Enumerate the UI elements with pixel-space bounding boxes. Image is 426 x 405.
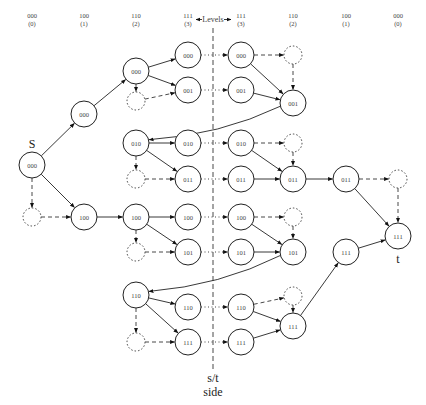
node-label: 101 bbox=[183, 249, 193, 256]
state-node: 011 bbox=[228, 166, 254, 192]
placeholder-node bbox=[284, 134, 302, 152]
state-node: 000 bbox=[228, 42, 254, 68]
state-node: 110 bbox=[175, 294, 201, 320]
node-label: 101 bbox=[288, 249, 298, 256]
edge-arrow bbox=[148, 59, 175, 67]
edge-arrow bbox=[253, 330, 280, 338]
level-column-bits: 000 bbox=[393, 12, 403, 19]
level-column-bits: 100 bbox=[341, 12, 351, 19]
edge-arrow bbox=[253, 311, 280, 321]
node-label: 001 bbox=[288, 100, 298, 107]
level-column-bits: 111 bbox=[236, 12, 245, 19]
node-label: 011 bbox=[288, 176, 298, 183]
node-label: 011 bbox=[183, 176, 193, 183]
state-node: 001 bbox=[175, 77, 201, 103]
node-label: 010 bbox=[236, 140, 246, 147]
node-label: 010 bbox=[183, 140, 193, 147]
state-node: 101 bbox=[175, 239, 201, 265]
state-node: 110 bbox=[123, 282, 149, 308]
state-node: 101 bbox=[228, 239, 254, 265]
node-circle bbox=[284, 208, 302, 226]
state-node: 100 bbox=[175, 204, 201, 230]
edge-arrow bbox=[147, 150, 177, 171]
node-label: 101 bbox=[236, 249, 246, 256]
placeholder-node bbox=[127, 170, 145, 188]
state-node: 011 bbox=[280, 166, 306, 192]
node-label: 111 bbox=[393, 233, 402, 240]
state-node: 000 bbox=[19, 152, 45, 178]
node-circle bbox=[127, 92, 145, 110]
state-node: 001 bbox=[280, 90, 306, 116]
edge-arrow bbox=[252, 150, 282, 171]
edge-arrow bbox=[146, 304, 178, 333]
node-label: 111 bbox=[288, 323, 297, 330]
state-node: 101 bbox=[280, 239, 306, 265]
node-label: 000 bbox=[79, 111, 89, 118]
level-column-index: (2) bbox=[289, 20, 297, 28]
level-column-bits: 110 bbox=[131, 12, 141, 19]
state-node: 010 bbox=[228, 130, 254, 156]
edge-arrow bbox=[149, 106, 280, 139]
edge-arrow bbox=[254, 298, 284, 304]
state-node: 110 bbox=[228, 294, 254, 320]
level-column-bits: 000 bbox=[27, 12, 37, 19]
node-label: 111 bbox=[341, 249, 350, 256]
node-circle bbox=[284, 46, 302, 64]
node-label: 010 bbox=[131, 140, 141, 147]
node-label: 000 bbox=[27, 162, 37, 169]
node-label: 000 bbox=[236, 52, 246, 59]
node-label: 001 bbox=[236, 87, 246, 94]
edges bbox=[32, 55, 398, 342]
level-column-index: (1) bbox=[80, 20, 88, 28]
level-header: 000(0)100(1)110(2)111(3)111(3)110(2)100(… bbox=[27, 12, 403, 28]
state-node: 111 bbox=[228, 329, 254, 355]
node-label: 011 bbox=[341, 176, 351, 183]
edge-arrow bbox=[149, 255, 280, 291]
level-column-index: (0) bbox=[28, 20, 36, 28]
sink-label: t bbox=[396, 252, 400, 266]
level-column-bits: 110 bbox=[288, 12, 298, 19]
levels-label: Levels bbox=[202, 15, 223, 24]
edge-arrow bbox=[251, 64, 284, 94]
placeholder-node bbox=[284, 208, 302, 226]
level-column-index: (3) bbox=[237, 20, 245, 28]
node-circle bbox=[23, 208, 41, 226]
edge-arrow bbox=[41, 123, 74, 155]
edge-arrow bbox=[148, 75, 175, 85]
node-circle bbox=[389, 170, 407, 188]
edge-arrow bbox=[301, 263, 339, 315]
placeholder-node bbox=[127, 92, 145, 110]
node-label: 111 bbox=[236, 339, 245, 346]
edge-arrow bbox=[355, 189, 389, 226]
level-column-bits: 111 bbox=[183, 12, 192, 19]
node-circle bbox=[127, 243, 145, 261]
level-column-index: (2) bbox=[132, 20, 140, 28]
placeholder-node bbox=[284, 46, 302, 64]
state-node: 001 bbox=[228, 77, 254, 103]
node-label: 111 bbox=[183, 339, 192, 346]
placeholder-node bbox=[23, 208, 41, 226]
divider-label-side: side bbox=[203, 385, 222, 399]
node-label: 011 bbox=[236, 176, 246, 183]
node-label: 001 bbox=[183, 87, 193, 94]
edge-arrow bbox=[147, 224, 177, 244]
placeholder-node bbox=[127, 243, 145, 261]
state-node: 011 bbox=[175, 166, 201, 192]
level-column-index: (1) bbox=[342, 20, 350, 28]
node-circle bbox=[127, 333, 145, 351]
node-label: 100 bbox=[131, 214, 141, 221]
node-label: 110 bbox=[236, 304, 246, 311]
state-node: 000 bbox=[71, 101, 97, 127]
edge-arrow bbox=[254, 93, 280, 100]
state-node: 010 bbox=[175, 130, 201, 156]
node-label: 000 bbox=[131, 68, 141, 75]
node-label: 100 bbox=[79, 214, 89, 221]
state-node: 011 bbox=[333, 166, 359, 192]
node-label: 110 bbox=[131, 292, 141, 299]
state-node: 000 bbox=[175, 42, 201, 68]
hypercube-flow-diagram: 000(0)100(1)110(2)111(3)111(3)110(2)100(… bbox=[0, 0, 426, 405]
edge-arrow bbox=[94, 80, 126, 106]
source-label: S bbox=[29, 137, 36, 151]
state-node: 100 bbox=[71, 204, 97, 230]
level-column-index: (3) bbox=[184, 20, 192, 28]
